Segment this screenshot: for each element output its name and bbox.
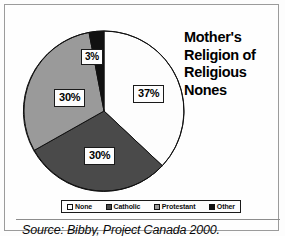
- pie-label-other: 3%: [81, 49, 103, 65]
- chart-legend: None Catholic Protestant Other: [61, 200, 241, 213]
- chart-title-line-4: Nones: [184, 82, 285, 100]
- legend-label-catholic: Catholic: [114, 203, 141, 211]
- pie-label-catholic: 30%: [84, 147, 115, 165]
- pie-label-none: 37%: [133, 85, 164, 103]
- pie-chart: 3% 37% 30% 30%: [18, 23, 190, 195]
- legend-item-protestant: Protestant: [154, 203, 196, 211]
- legend-swatch-protestant: [154, 204, 160, 210]
- legend-label-other: Other: [217, 203, 235, 211]
- legend-item-other: Other: [209, 203, 235, 211]
- legend-item-catholic: Catholic: [106, 203, 141, 211]
- chart-frame-inner: 3% 37% 30% 30% Mother's Religion of Reli…: [10, 9, 275, 227]
- chart-frame: 3% 37% 30% 30% Mother's Religion of Reli…: [4, 4, 279, 231]
- chart-title-line-2: Religion of: [184, 47, 285, 65]
- legend-label-none: None: [75, 203, 92, 211]
- pie-chart-svg: [18, 23, 190, 195]
- chart-screenshot: 3% 37% 30% 30% Mother's Religion of Reli…: [0, 0, 285, 236]
- source-caption: Source: Bibby, Project Canada 2000.: [22, 223, 220, 236]
- legend-swatch-none: [67, 204, 73, 210]
- source-divider: [16, 219, 280, 220]
- chart-title-line-3: Religious: [184, 64, 285, 82]
- legend-label-protestant: Protestant: [162, 203, 196, 211]
- pie-label-protestant: 30%: [54, 89, 85, 107]
- legend-swatch-other: [209, 204, 215, 210]
- legend-swatch-catholic: [106, 204, 112, 210]
- chart-title: Mother's Religion of Religious Nones: [184, 29, 285, 99]
- legend-item-none: None: [67, 203, 92, 211]
- chart-title-line-1: Mother's: [184, 29, 285, 47]
